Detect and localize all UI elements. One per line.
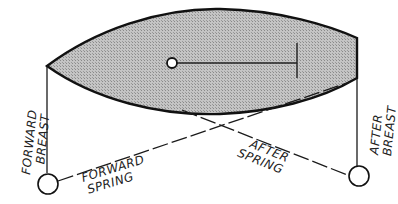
after-breast-label-2: BREAST: [380, 104, 398, 157]
mooring-diagram: FORWARD BREAST AFTER BREAST FORWARD SPRI…: [0, 0, 398, 204]
after-bollard-icon: [349, 166, 369, 186]
rudder-post-icon: [167, 58, 177, 68]
boat-hull: [47, 9, 357, 114]
forward-bollard-icon: [38, 174, 58, 194]
